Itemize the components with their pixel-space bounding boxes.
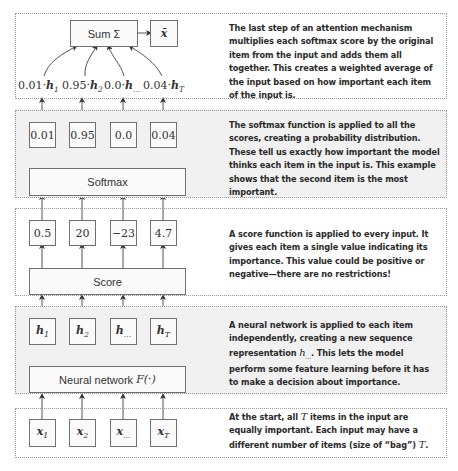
value: 4.7 <box>155 227 173 240</box>
value: −23 <box>112 227 135 240</box>
score-value-2: 20 <box>69 220 96 246</box>
output-xbar-label: x̄ <box>161 27 168 40</box>
var: h <box>46 79 54 92</box>
softmax-value-4: 0.04 <box>150 122 177 148</box>
var: h <box>90 79 98 92</box>
subscript: 2 <box>83 432 88 441</box>
value: 0.95 <box>70 129 95 142</box>
score-layer-box: Score <box>29 268 186 295</box>
subscript: ... <box>123 432 131 441</box>
desc-text: . <box>425 440 428 450</box>
subscript: ... <box>124 330 132 339</box>
subscript: ... <box>133 85 140 94</box>
softmax-value-1: 0.01 <box>29 122 56 148</box>
input-xT-box: xT <box>150 419 177 447</box>
hidden-h2-box: h2 <box>69 318 96 345</box>
softmax-layer-box: Softmax <box>29 168 186 196</box>
hidden-hdots-box: h... <box>110 318 137 345</box>
softmax-value-2: 0.95 <box>69 122 96 148</box>
output-xbar-box: x̄ <box>150 20 178 47</box>
neural-network-layer-box: Neural network F(·) <box>29 366 186 393</box>
softmax-value-3: 0.0 <box>110 122 137 148</box>
score-value-4: 4.7 <box>150 220 177 246</box>
var: h <box>36 324 44 337</box>
var: h <box>157 324 165 337</box>
subscript: T <box>165 330 170 339</box>
neural-network-label: Neural network <box>59 374 136 386</box>
weight-value: 0.04 <box>143 79 168 92</box>
value: 20 <box>76 227 90 240</box>
input-xdots-box: x... <box>110 419 137 447</box>
stage-softmax-description: The softmax function is applied to all t… <box>229 119 441 199</box>
sum-box: Sum Σ <box>70 20 138 47</box>
weight-value: 0.95 <box>62 79 87 92</box>
score-value-3: −23 <box>110 220 137 246</box>
subscript: 1 <box>43 432 48 441</box>
value: 0.04 <box>151 129 176 142</box>
value: 0.0 <box>115 129 133 142</box>
hidden-hT-box: hT <box>150 318 177 345</box>
var: h <box>76 324 84 337</box>
score-value-1: 0.5 <box>29 220 56 246</box>
stage-score-description: A score function is applied to every inp… <box>229 228 441 282</box>
softmax-label: Softmax <box>87 176 127 188</box>
subscript: 2 <box>84 330 89 339</box>
weighted-term-4: 0.04·hT <box>143 79 184 94</box>
weighted-term-1: 0.01·h1 <box>18 79 59 94</box>
hidden-h1-box: h1 <box>29 318 56 345</box>
var: h <box>171 79 179 92</box>
var: h <box>116 324 124 337</box>
subscript: T <box>179 85 184 94</box>
input-x2-box: x2 <box>69 419 96 447</box>
stage-output-description: The last step of an attention mechanism … <box>229 22 441 102</box>
weight-value: 0.01 <box>18 79 43 92</box>
subscript: 1 <box>54 85 59 94</box>
weighted-term-2: 0.95·h2 <box>62 79 103 94</box>
stage-neural-network-description: A neural network is applied to each item… <box>229 319 441 390</box>
value: 0.5 <box>34 227 52 240</box>
var: h <box>125 79 133 92</box>
sum-label: Sum Σ <box>88 28 120 40</box>
subscript: T <box>164 432 169 441</box>
subscript: 1 <box>44 330 49 339</box>
subscript: 2 <box>98 85 103 94</box>
input-x1-box: x1 <box>29 419 56 447</box>
score-label: Score <box>93 276 122 288</box>
value: 0.01 <box>30 129 55 142</box>
weighted-term-3: 0.0·h... <box>104 79 140 94</box>
function-notation: F(·) <box>136 373 156 386</box>
stage-input-description: At the start, all T items in the input a… <box>229 410 441 452</box>
weight-value: 0.0 <box>104 79 122 92</box>
desc-text: At the start, all <box>229 412 301 422</box>
